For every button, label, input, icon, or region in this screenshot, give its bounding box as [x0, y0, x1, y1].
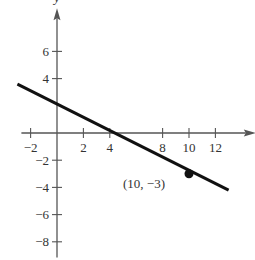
x-tick-label: 10 [183, 140, 196, 155]
x-tick-label: 2 [80, 140, 87, 155]
data-line [17, 84, 228, 190]
data-point-marker [185, 169, 194, 178]
y-tick-label: −4 [35, 180, 49, 195]
x-tick-label: 4 [107, 140, 114, 155]
y-tick-label: 6 [43, 44, 50, 59]
y-tick-label: −6 [35, 207, 49, 222]
y-tick-label: 4 [43, 71, 50, 86]
x-tick-label: 8 [159, 140, 166, 155]
y-tick-label: −2 [35, 153, 49, 168]
data-point-label: (10, −3) [123, 176, 165, 191]
y-tick-label: −8 [35, 234, 49, 249]
x-tick-label: 12 [209, 140, 222, 155]
data-line-segment [17, 84, 228, 190]
data-points: (10, −3) [123, 169, 194, 191]
line-graph: xy −2248101264−2−4−6−8 (10, −3) [0, 0, 255, 260]
ticks: −2248101264−2−4−6−8 [24, 44, 222, 249]
axes: xy [21, 0, 255, 257]
y-axis-label: y [52, 0, 60, 5]
